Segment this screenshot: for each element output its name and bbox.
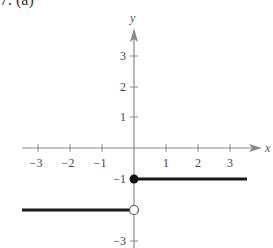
y-tick-label: 1 [120, 110, 126, 124]
x-axis-label: x [264, 141, 271, 155]
y-axis-label: y [129, 11, 136, 25]
x-tick-labels: −3 −2 −1 1 2 3 [30, 156, 233, 170]
left-piece [22, 206, 139, 215]
x-tick-label: 1 [163, 156, 169, 170]
x-tick-label: −1 [94, 156, 107, 170]
right-piece [130, 175, 248, 184]
graph-figure: 7. (a) x y −3 −2 −1 1 2 3 [0, 0, 273, 248]
y-tick-label: 2 [120, 80, 126, 94]
y-tick-label: −3 [113, 234, 126, 248]
x-tick-label: −3 [30, 156, 43, 170]
x-tick-label: −2 [62, 156, 75, 170]
open-endpoint-circle [130, 206, 139, 215]
y-tick-label: −1 [113, 172, 126, 186]
x-axis: x [22, 141, 271, 155]
x-tick-label: 2 [195, 156, 201, 170]
closed-endpoint-dot [130, 175, 139, 184]
x-tick-label: 3 [227, 156, 233, 170]
plot-area: x y −3 −2 −1 1 2 3 [0, 0, 273, 248]
y-tick-label: 3 [120, 49, 126, 63]
